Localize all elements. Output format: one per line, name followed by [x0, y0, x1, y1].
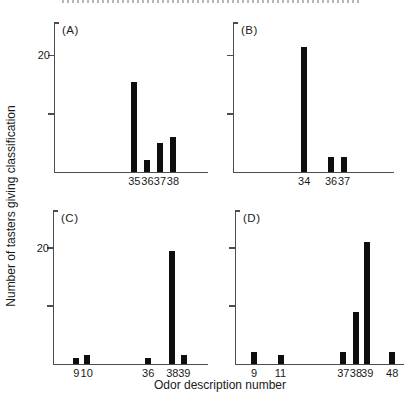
x-tick-label: 37	[154, 175, 166, 187]
x-tick-label: 36	[325, 175, 337, 187]
bar	[157, 143, 163, 172]
x-tick-label: 10	[81, 367, 93, 379]
bar	[278, 355, 284, 364]
x-tick-label: 48	[386, 367, 398, 379]
panel-B: (B) 343637	[233, 22, 394, 173]
bar	[251, 352, 257, 364]
bar	[84, 355, 90, 364]
x-tick-label: 39	[361, 367, 373, 379]
panel-D-label: (D)	[243, 212, 260, 224]
x-tick-label: 9	[73, 367, 79, 379]
bar	[353, 312, 359, 364]
bar	[170, 137, 176, 172]
x-tick-label: 37	[337, 367, 349, 379]
bar	[301, 47, 307, 172]
y-axis-tick	[47, 305, 54, 307]
bar	[341, 157, 347, 172]
panel-A: (A) 2035363738	[54, 22, 208, 173]
panel-C: (C) 20910363839	[53, 210, 208, 365]
bar	[340, 352, 346, 364]
y-axis-tick	[227, 113, 234, 115]
x-tick-label: 36	[141, 175, 153, 187]
y-tick-label: 20	[38, 49, 50, 62]
y-axis-tick	[229, 247, 236, 249]
y-axis-label: Number of tasters giving classification	[4, 105, 18, 306]
x-tick-label: 38	[167, 175, 179, 187]
bar	[73, 358, 79, 364]
bar	[328, 157, 334, 172]
panel-A-label: (A)	[62, 24, 79, 36]
bar	[131, 82, 137, 172]
panel-C-label: (C)	[61, 212, 78, 224]
x-tick-label: 35	[128, 175, 140, 187]
cropped-caption-remnant	[62, 0, 362, 3]
x-axis-label: Odor description number	[154, 378, 286, 392]
panel-D: (D) 91137383948	[235, 210, 404, 365]
x-tick-label: 36	[142, 367, 154, 379]
y-axis-tick	[229, 305, 236, 307]
bar	[145, 358, 151, 364]
bar	[169, 251, 175, 364]
bar	[364, 242, 370, 364]
bar-chart-figure: Number of tasters giving classification …	[0, 0, 412, 402]
x-tick-label: 37	[338, 175, 350, 187]
y-axis-tick	[227, 55, 234, 57]
bar	[144, 160, 150, 172]
y-axis-tick	[48, 113, 55, 115]
panel-B-label: (B)	[241, 24, 258, 36]
bar	[181, 355, 187, 364]
bar	[389, 352, 395, 364]
y-tick-label: 20	[37, 242, 49, 255]
x-tick-label: 34	[298, 175, 310, 187]
